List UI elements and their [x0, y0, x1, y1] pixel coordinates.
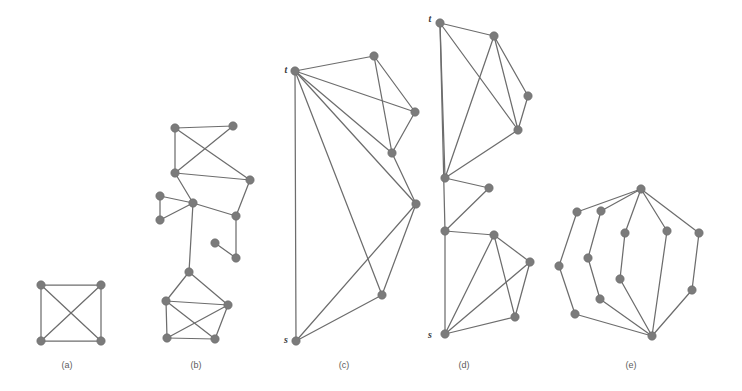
- graph-node: [37, 281, 45, 289]
- graph-node: [441, 227, 449, 235]
- graph-node: [232, 212, 240, 220]
- graph-node: [695, 229, 703, 237]
- graph-node: [388, 149, 396, 157]
- graph-node: [648, 332, 656, 340]
- graph-node: [596, 295, 604, 303]
- graph-node: [171, 169, 179, 177]
- graph-node: [229, 122, 237, 130]
- terminal-label-s-panel-d: s: [427, 329, 432, 340]
- graph-node: [246, 176, 254, 184]
- graph-node: [97, 281, 105, 289]
- graph-node: [616, 275, 624, 283]
- graph-node: [162, 297, 170, 305]
- graph-node: [37, 337, 45, 345]
- graph-node: [232, 254, 240, 262]
- graph-node: [292, 337, 300, 345]
- graph-node: [555, 262, 563, 270]
- graph-node: [637, 185, 645, 193]
- graph-node: [571, 310, 579, 318]
- graph-node: [526, 258, 534, 266]
- terminal-label-s-panel-c: s: [283, 334, 288, 345]
- graph-node: [370, 52, 378, 60]
- graph-node: [156, 192, 164, 200]
- graph-node: [211, 335, 219, 343]
- graph-node: [524, 92, 532, 100]
- graph-node: [412, 200, 420, 208]
- graph-node: [490, 32, 498, 40]
- graph-node: [490, 231, 498, 239]
- graph-node: [688, 286, 696, 294]
- graph-node: [189, 199, 197, 207]
- panel-caption-b: (b): [191, 360, 202, 370]
- graph-node: [663, 227, 671, 235]
- graph-node: [436, 19, 444, 27]
- panel-caption-e: (e): [626, 360, 637, 370]
- graph-node: [163, 334, 171, 342]
- graph-node: [97, 337, 105, 345]
- graph-node: [441, 330, 449, 338]
- graph-node: [573, 208, 581, 216]
- graph-node: [291, 67, 299, 75]
- graph-node: [597, 207, 605, 215]
- panel-caption-a: (a): [62, 360, 73, 370]
- graph-node: [411, 108, 419, 116]
- graph-node: [211, 239, 219, 247]
- graph-node: [584, 254, 592, 262]
- panel-caption-c: (c): [339, 360, 350, 370]
- graph-node: [185, 268, 193, 276]
- graph-node: [511, 313, 519, 321]
- graph-node: [171, 124, 179, 132]
- graph-node: [485, 184, 493, 192]
- graph-node: [514, 126, 522, 134]
- graph-node: [224, 301, 232, 309]
- graph-node: [621, 229, 629, 237]
- graph-node: [156, 216, 164, 224]
- graph-node: [378, 291, 386, 299]
- panel-caption-d: (d): [459, 360, 470, 370]
- figure-root: tsts (a)(b)(c)(d)(e): [0, 0, 742, 391]
- graph-node: [441, 174, 449, 182]
- graph-figure-canvas: tsts (a)(b)(c)(d)(e): [0, 0, 742, 391]
